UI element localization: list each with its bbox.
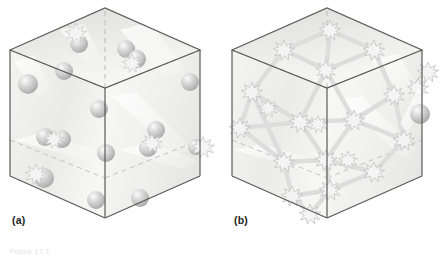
sphere bbox=[18, 74, 38, 94]
sphere bbox=[181, 73, 199, 91]
cube-b-svg bbox=[222, 0, 444, 253]
cube-a-svg bbox=[0, 0, 222, 253]
panel-b: (b) bbox=[222, 0, 444, 253]
panel-b-label: (b) bbox=[234, 214, 248, 226]
figure-caption: Figure 17.1 bbox=[10, 248, 50, 255]
sphere bbox=[97, 144, 115, 162]
sphere bbox=[147, 121, 165, 139]
panel-a-label: (a) bbox=[12, 214, 25, 226]
sphere bbox=[410, 104, 430, 124]
panel-a: (a) bbox=[0, 0, 222, 253]
sphere bbox=[131, 189, 149, 207]
sphere bbox=[87, 191, 105, 209]
